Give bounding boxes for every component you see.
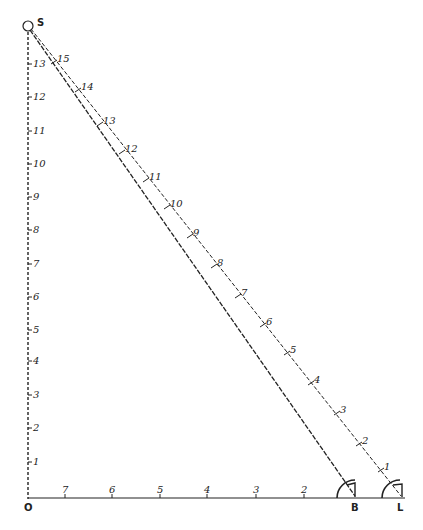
point-label-o: O [24, 502, 33, 513]
hypotenuse-tick-label: 1 [384, 461, 390, 472]
hypotenuse-tick-label: 5 [290, 344, 296, 355]
vertical-tick-label: 12 [33, 91, 46, 102]
angle-arc-l [382, 480, 400, 498]
vertical-tick-label: 1 [33, 456, 39, 467]
vertical-tick-label: 8 [33, 224, 39, 235]
diagram-canvas: 12345678910111213 765432 123456789101112… [0, 0, 423, 530]
line-s-to-b [30, 30, 355, 496]
vertical-tick-label: 2 [32, 422, 39, 433]
horizontal-tick-label: 3 [253, 484, 259, 495]
hypotenuse-tick-label: 3 [340, 404, 346, 415]
point-label-s: S [37, 17, 44, 28]
vertical-tick-label: 9 [33, 191, 40, 202]
vertical-tick-label: 3 [33, 389, 39, 400]
horizontal-tick-label: 4 [203, 484, 210, 495]
hypotenuse-tick-label: 7 [241, 287, 248, 298]
angle-arc-b [337, 480, 355, 498]
vertical-tick-label: 4 [32, 355, 39, 366]
hypotenuse-tick-label: 4 [313, 374, 320, 385]
line-s-to-l [31, 29, 401, 496]
horizontal-tick-label: 2 [300, 484, 307, 495]
hypotenuse-tick-label: 14 [81, 81, 94, 92]
hypotenuse-tick-label: 10 [170, 198, 183, 209]
hypotenuse-tick-label: 2 [361, 435, 368, 446]
hypotenuse-tick-label: 8 [217, 257, 223, 268]
vertical-scale: 12345678910111213 [28, 58, 46, 467]
source-circle [23, 21, 33, 31]
point-label-b: B [351, 502, 359, 513]
hypotenuse-tick-label: 12 [125, 143, 138, 154]
vertical-tick-label: 6 [33, 291, 40, 302]
hypotenuse-tick-label: 13 [103, 115, 116, 126]
hypotenuse-tick-label: 9 [193, 227, 200, 238]
hypotenuse-tick-label: 11 [149, 171, 162, 182]
vertical-tick-label: 11 [33, 125, 46, 136]
horizontal-tick-label: 5 [157, 484, 163, 495]
horizontal-tick-label: 7 [62, 484, 69, 495]
hypotenuse-scale: 123456789101112131415 [51, 53, 390, 472]
horizontal-tick-label: 6 [109, 484, 116, 495]
vertical-tick-label: 13 [33, 58, 46, 69]
point-label-l: L [397, 502, 404, 513]
hypotenuse-tick-label: 15 [57, 53, 70, 64]
vertical-tick-label: 5 [33, 324, 39, 335]
horizontal-scale: 765432 [62, 484, 307, 498]
vertical-tick-label: 7 [33, 258, 40, 269]
hypotenuse-tick-label: 6 [266, 316, 273, 327]
vertical-tick-label: 10 [33, 158, 46, 169]
